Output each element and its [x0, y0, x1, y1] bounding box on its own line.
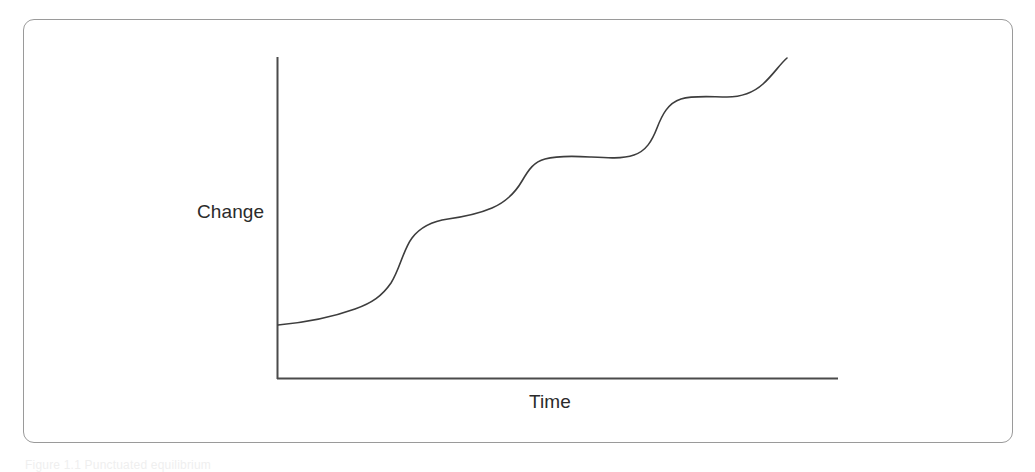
- y-axis-label: Change: [197, 201, 264, 223]
- punctuated-equilibrium-curve: [278, 58, 787, 325]
- x-axis-label: Time: [529, 391, 571, 413]
- figure-caption: Figure 1.1 Punctuated equilibrium: [25, 458, 211, 472]
